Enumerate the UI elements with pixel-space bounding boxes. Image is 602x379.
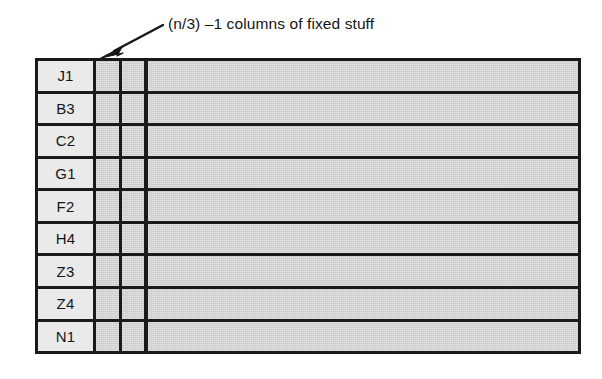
row-label-cell: C2 — [38, 126, 96, 156]
fixed-column-cell — [122, 224, 148, 254]
row-label-text: G1 — [55, 165, 75, 182]
row-label-text: B3 — [56, 100, 75, 117]
table-row: Z4 — [38, 289, 578, 322]
fixed-column-cell — [122, 256, 148, 286]
variable-column-cell — [148, 61, 578, 91]
variable-column-cell — [148, 322, 578, 352]
fixed-column-cell — [96, 289, 122, 319]
table-row: H4 — [38, 224, 578, 257]
table-row: J1 — [38, 61, 578, 94]
variable-column-cell — [148, 159, 578, 189]
fixed-column-cell — [96, 191, 122, 221]
fixed-column-cell — [96, 159, 122, 189]
row-label-cell: B3 — [38, 94, 96, 124]
variable-column-cell — [148, 289, 578, 319]
row-label-text: C2 — [56, 132, 76, 149]
row-label-cell: J1 — [38, 61, 96, 91]
table-row: C2 — [38, 126, 578, 159]
row-label-text: Z3 — [57, 263, 75, 280]
arrow-down-left-icon — [101, 25, 163, 58]
variable-column-cell — [148, 256, 578, 286]
row-label-text: H4 — [56, 230, 76, 247]
fixed-column-cell — [96, 94, 122, 124]
row-label-cell: G1 — [38, 159, 96, 189]
variable-column-cell — [148, 94, 578, 124]
annotation-caption: (n/3) –1 columns of fixed stuff — [168, 14, 374, 34]
table-row: N1 — [38, 322, 578, 352]
row-label-cell: Z3 — [38, 256, 96, 286]
fixed-column-cell — [122, 61, 148, 91]
fixed-column-cell — [96, 61, 122, 91]
row-label-cell: N1 — [38, 322, 96, 352]
variable-column-cell — [148, 191, 578, 221]
fixed-column-cell — [122, 126, 148, 156]
table-row: F2 — [38, 191, 578, 224]
row-label-text: J1 — [57, 67, 73, 84]
row-label-cell: Z4 — [38, 289, 96, 319]
variable-column-cell — [148, 126, 578, 156]
fixed-column-cell — [122, 191, 148, 221]
row-label-cell: H4 — [38, 224, 96, 254]
fixed-column-cell — [96, 322, 122, 352]
fixed-column-cell — [122, 289, 148, 319]
fixed-column-cell — [96, 224, 122, 254]
table-row: B3 — [38, 94, 578, 127]
fixed-column-cell — [122, 94, 148, 124]
row-label-cell: F2 — [38, 191, 96, 221]
grid-table: J1B3C2G1F2H4Z3Z4N1 — [35, 58, 581, 354]
fixed-column-cell — [96, 256, 122, 286]
fixed-column-cell — [96, 126, 122, 156]
fixed-column-cell — [122, 322, 148, 352]
row-label-text: F2 — [57, 198, 75, 215]
row-label-text: N1 — [56, 328, 76, 345]
table-row: Z3 — [38, 256, 578, 289]
variable-column-cell — [148, 224, 578, 254]
figure-fixed-columns-diagram: J1B3C2G1F2H4Z3Z4N1 (n/3) –1 columns of f… — [0, 0, 602, 379]
table-row: G1 — [38, 159, 578, 192]
fixed-column-cell — [122, 159, 148, 189]
row-label-text: Z4 — [57, 295, 75, 312]
